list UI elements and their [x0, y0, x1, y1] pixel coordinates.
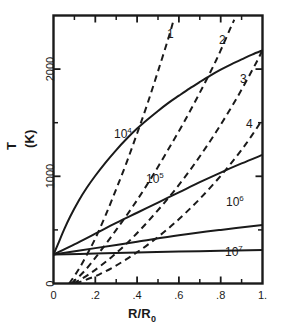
- x-tick-label: .2: [80, 289, 110, 301]
- y-tick-label: 2000: [44, 56, 56, 82]
- x-tick-label: 1.: [248, 289, 278, 301]
- y-tick-label: 1000: [44, 163, 56, 189]
- curve-2: [71, 20, 234, 284]
- y-tick-label: 0: [44, 280, 56, 287]
- plot-area: [0, 0, 284, 334]
- curve-10e4: [54, 50, 263, 254]
- label-curve-2: 2: [219, 33, 226, 47]
- label-10e6: 106: [226, 196, 244, 208]
- x-tick-label: .6: [164, 289, 194, 301]
- data-curves: [54, 20, 263, 284]
- label-10e7: 107: [225, 246, 243, 258]
- x-tick-label: .4: [122, 289, 152, 301]
- label-10e5: 105: [146, 173, 164, 185]
- x-tick-label: 0: [39, 289, 69, 301]
- label-curve-3: 3: [240, 72, 247, 86]
- y-axis-title-unit: (K): [22, 129, 37, 148]
- label-curve-1: 1: [167, 27, 174, 41]
- plot-frame-box: [54, 16, 263, 284]
- x-tick-label: .8: [206, 289, 236, 301]
- axis-ticks: [54, 16, 263, 284]
- label-curve-4: 4: [246, 117, 253, 131]
- chart-figure: R/R0 T (K) 0.2.4.6.81. 010002000 1041051…: [0, 0, 284, 334]
- label-10e4: 104: [114, 128, 132, 140]
- x-axis-title: R/R0: [0, 306, 284, 324]
- y-axis-title-symbol: T: [4, 142, 19, 150]
- axes-frame: [54, 16, 263, 284]
- x-axis-title-text: R/R0: [128, 306, 156, 321]
